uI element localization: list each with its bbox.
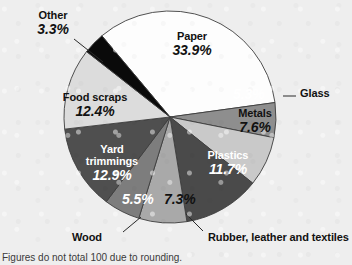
slice-label-wood: Wood	[72, 232, 102, 244]
slice-name-glass: Glass	[300, 88, 329, 100]
leader-line-wood	[123, 217, 141, 232]
slice-label-other: Other 3.3%	[22, 10, 84, 37]
slice-percent-yard: 12.9%	[64, 168, 160, 183]
slice-percent-glass: 5.3%	[233, 87, 265, 102]
slice-percent-food: 12.4%	[43, 104, 147, 119]
figure-footnote: Figures do not total 100 due to rounding…	[2, 252, 182, 263]
slice-label-rubber: Rubber, leather and textiles	[208, 232, 349, 244]
pie-chart-figure: Other 3.3% Paper 33.9% 5.3% Glass Metals…	[0, 0, 352, 265]
slice-percent-wood: 5.5%	[122, 192, 154, 207]
slice-percent-paper: 33.9%	[151, 43, 233, 58]
slice-percent-rubber-wrap: 7.3%	[164, 192, 196, 207]
slice-label-paper: Paper 33.9%	[151, 31, 233, 58]
slice-percent-glass-wrap: 5.3%	[233, 87, 265, 102]
slice-percent-other: 3.3%	[22, 22, 84, 37]
slice-label-plastics: Plastics 11.7%	[186, 150, 270, 177]
slice-name-wood: Wood	[72, 232, 102, 244]
slice-name-rubber: Rubber, leather and textiles	[208, 232, 349, 244]
slice-percent-wood-wrap: 5.5%	[122, 192, 154, 207]
slice-label-glass: Glass	[300, 88, 329, 100]
slice-label-yard: Yard trimmings 12.9%	[64, 144, 160, 183]
slice-percent-plastics: 11.7%	[186, 162, 270, 177]
slice-label-metals: Metals 7.6%	[216, 108, 294, 135]
slice-label-food: Food scraps 12.4%	[43, 92, 147, 119]
slice-name-yard-line2: trimmings	[64, 156, 160, 168]
slice-percent-rubber: 7.3%	[164, 192, 196, 207]
slice-percent-metals: 7.6%	[216, 120, 294, 135]
